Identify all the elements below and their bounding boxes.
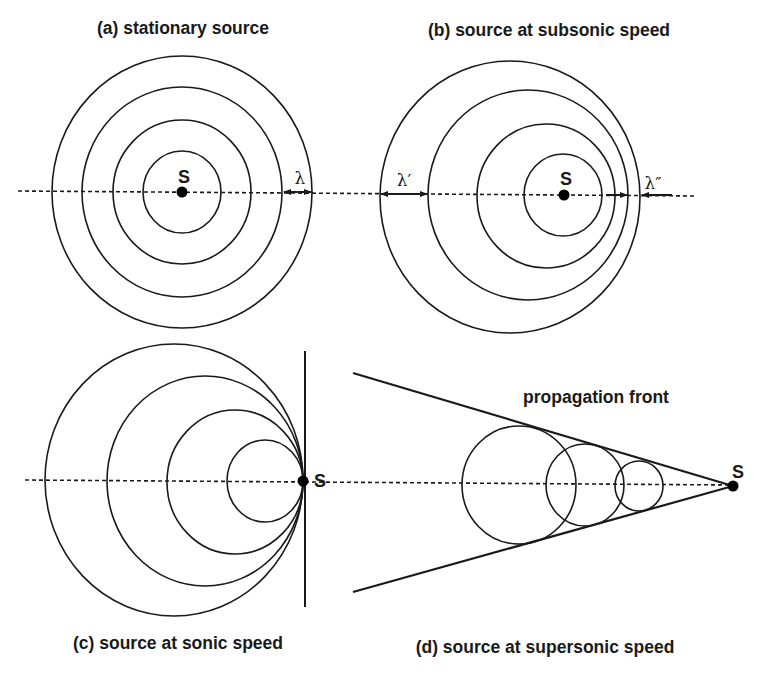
dashed-axis-line <box>25 480 733 485</box>
wavefronts <box>462 426 663 544</box>
source-dot-icon <box>298 476 309 487</box>
wavefront-circle <box>462 426 576 544</box>
wavelength-label: λ′ <box>397 170 412 190</box>
panel-subsonic-source: (b) source at subsonic speed λ′λ″ S <box>380 20 672 333</box>
source-dot-icon <box>559 190 570 201</box>
propagation-front-label: propagation front <box>523 387 669 407</box>
wavelength-markers: λ <box>284 168 311 192</box>
panel-b-title: (b) source at subsonic speed <box>428 20 670 40</box>
wavefront-circle <box>428 90 628 300</box>
panel-sonic-source: (c) source at sonic speed S <box>45 344 326 653</box>
panel-stationary-source: (a) stationary source λ S <box>52 18 312 328</box>
wavefront-circle <box>615 461 663 511</box>
source-dot-icon <box>728 481 739 492</box>
source-label: S <box>560 169 572 189</box>
propagation-front-line <box>353 486 733 592</box>
source-label: S <box>314 471 326 491</box>
source-label: S <box>732 462 744 482</box>
wavelength-label: λ <box>295 168 306 188</box>
panel-a-title: (a) stationary source <box>97 18 269 38</box>
wavefront-circle <box>546 444 624 526</box>
doppler-figure: (a) stationary source λ S (b) source at … <box>0 0 762 680</box>
propagation-axes <box>18 191 733 485</box>
panel-c-title: (c) source at sonic speed <box>73 633 283 653</box>
dashed-axis-line <box>18 191 697 196</box>
wavefront-circle <box>380 61 640 333</box>
source-dot-icon <box>177 187 188 198</box>
panel-d-title: (d) source at supersonic speed <box>416 637 675 657</box>
panel-supersonic-source: (d) source at supersonic speed propagati… <box>353 373 744 657</box>
doppler-diagram-canvas: (a) stationary source λ S (b) source at … <box>0 0 762 680</box>
wavefronts <box>380 61 640 333</box>
wavelength-label: λ″ <box>644 173 661 193</box>
source-label: S <box>178 167 190 187</box>
